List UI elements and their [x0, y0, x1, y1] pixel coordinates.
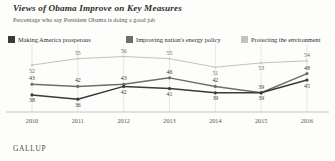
series-point [30, 83, 33, 86]
x-tick-label: 2013 [163, 117, 175, 124]
data-label: 39 [258, 84, 264, 90]
series-point [30, 93, 33, 96]
series-point [76, 85, 79, 88]
series-point [305, 72, 308, 75]
data-label: 41 [167, 91, 173, 97]
data-label: 46 [167, 69, 173, 75]
chart-subtitle: Percentage who say President Obama is do… [13, 16, 155, 23]
series-point [214, 91, 217, 94]
chart-plot-area: 3836424139394543424346423948525556555153… [0, 42, 335, 134]
series-point [260, 62, 262, 64]
chart-card: Views of Obama Improve on Key Measures P… [0, 0, 335, 161]
x-tick-label: 2015 [255, 117, 267, 124]
data-label: 54 [304, 52, 310, 58]
series-point [168, 76, 171, 79]
x-tick-label: 2012 [117, 117, 129, 124]
series-point [31, 64, 33, 66]
series-point [168, 87, 171, 90]
data-label: 42 [212, 77, 218, 83]
line-chart-svg: 3836424139394543424346423948525556555153… [0, 42, 335, 134]
series-point [214, 66, 216, 68]
series-point [77, 58, 79, 60]
series-point [123, 56, 125, 58]
data-label: 42 [75, 77, 81, 83]
series-point [305, 78, 308, 81]
x-tick-label: 2016 [301, 117, 313, 124]
series-point [214, 85, 217, 88]
data-label: 55 [75, 50, 81, 56]
data-label: 43 [121, 75, 127, 81]
data-label: 38 [29, 97, 35, 103]
series-point [306, 60, 308, 62]
data-label: 53 [258, 65, 264, 71]
data-label: 51 [212, 70, 218, 76]
data-label: 42 [121, 89, 127, 95]
series-point [76, 98, 79, 101]
series-point [169, 58, 171, 60]
data-label: 39 [258, 95, 264, 101]
chart-legend: Making America prosperous Improving nati… [8, 28, 333, 40]
data-label: 39 [212, 95, 218, 101]
data-label: 56 [121, 48, 127, 54]
series-point [122, 85, 125, 88]
x-tick-label: 2014 [209, 117, 221, 124]
x-tick-label: 2010 [26, 117, 38, 124]
series-point [260, 91, 263, 94]
data-label: 48 [304, 65, 310, 71]
source-brand: GALLUP [13, 144, 46, 153]
data-label: 45 [304, 83, 310, 89]
data-label: 55 [167, 50, 173, 56]
legend-item-environment: Protecting the environment [241, 28, 321, 40]
legend-item-energy-policy: Improving nation's energy policy [126, 28, 221, 40]
data-label: 52 [29, 68, 35, 74]
x-tick-label: 2011 [72, 117, 84, 124]
data-label: 36 [75, 102, 81, 108]
data-label: 43 [29, 75, 35, 81]
chart-title: Views of Obama Improve on Key Measures [13, 3, 182, 13]
legend-item-prosperous: Making America prosperous [8, 28, 91, 40]
